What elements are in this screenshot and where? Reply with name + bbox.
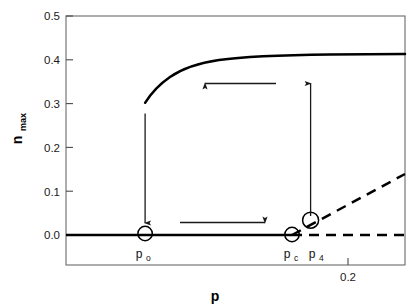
y-tick-label-4: 0.4 xyxy=(44,54,61,66)
annotation-p-c: p c xyxy=(284,247,299,263)
chart-svg: 0.0 0.1 0.2 0.3 0.4 0.5 0.2 p n max xyxy=(0,0,418,307)
x-axis-title: p xyxy=(211,288,220,304)
x-axis-title-text: p xyxy=(211,288,220,304)
y-tick-label-5: 0.5 xyxy=(44,10,60,22)
y-tick-label-3: 0.3 xyxy=(44,98,60,110)
y-axis-title: n max xyxy=(9,113,28,144)
annotation-p-4-sub: 4 xyxy=(319,253,324,263)
y-axis-ticks xyxy=(66,16,73,235)
annotation-p-4-base: p xyxy=(309,247,316,261)
y-axis-tick-labels: 0.0 0.1 0.2 0.3 0.4 0.5 xyxy=(44,10,61,241)
y-axis-title-sub: max xyxy=(18,113,28,131)
x-tick-label-0: 0.2 xyxy=(340,271,356,283)
chart-figure: 0.0 0.1 0.2 0.3 0.4 0.5 0.2 p n max xyxy=(0,0,418,307)
annotation-p-o-base: p xyxy=(136,247,143,261)
x-axis-tick-labels: 0.2 xyxy=(340,271,356,283)
y-axis-title-base: n xyxy=(9,136,25,145)
upper-stable-branch-solid xyxy=(145,54,405,103)
y-tick-label-1: 0.1 xyxy=(44,186,60,198)
annotation-p-c-base: p xyxy=(284,247,291,261)
annotation-p-o: p o xyxy=(136,247,151,263)
y-tick-label-0: 0.0 xyxy=(44,229,60,241)
annotation-p-4: p 4 xyxy=(309,247,324,263)
marker-p-o xyxy=(138,226,152,240)
annotation-p-c-sub: c xyxy=(294,253,299,263)
unstable-branch-dashed-rising xyxy=(292,174,405,235)
y-tick-label-2: 0.2 xyxy=(44,142,60,154)
annotation-p-o-sub: o xyxy=(146,253,151,263)
